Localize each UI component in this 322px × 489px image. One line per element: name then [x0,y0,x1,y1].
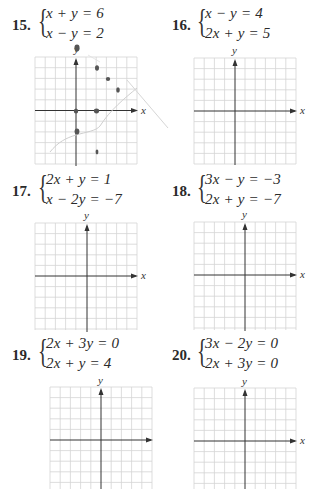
axes [194,391,295,489]
x-axis-label: x [299,434,305,446]
coordinate-grid-20[interactable]: x y [0,0,322,489]
y-axis-arrow-icon [243,389,248,396]
y-axis-label: y [241,375,247,387]
